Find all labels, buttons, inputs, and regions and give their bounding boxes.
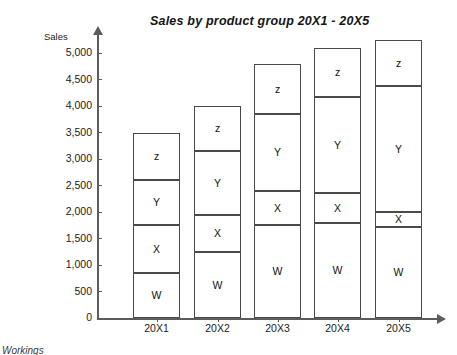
bar-segment-label: X [214, 228, 221, 239]
x-axis-arrowhead [437, 314, 446, 324]
bar-segment-x[interactable]: X [194, 215, 241, 252]
plot-area: 05001,0001,5002,0002,5003,0003,5004,0004… [0, 0, 457, 355]
bar-segment-label: X [274, 203, 281, 214]
y-axis-line [97, 34, 99, 319]
y-tick-mark [97, 291, 102, 292]
bar-segment-w[interactable]: W [133, 273, 180, 318]
stacked-bar[interactable]: WXYz [133, 133, 180, 319]
y-tick-label: 3,000 [36, 152, 92, 164]
y-tick-label: 5,000 [36, 46, 92, 58]
y-tick-label: 1,000 [36, 258, 92, 270]
x-tick-label-20x4: 20X4 [308, 322, 368, 334]
stacked-bar[interactable]: WXYz [375, 40, 422, 318]
stacked-bar[interactable]: WXYz [194, 106, 241, 318]
bar-segment-label: Y [153, 197, 160, 208]
bar-segment-x[interactable]: X [254, 191, 301, 225]
y-tick-label: 1,500 [36, 232, 92, 244]
bar-segment-x[interactable]: X [314, 193, 361, 222]
bar-segment-label: Y [334, 140, 341, 151]
bar-segment-x[interactable]: X [375, 212, 422, 227]
bar-segment-label: W [394, 267, 404, 278]
x-axis-line [97, 318, 437, 320]
bar-segment-label: X [334, 203, 341, 214]
bar-segment-label: W [152, 290, 162, 301]
bar-segment-label: z [275, 84, 280, 95]
y-tick-label: 4,000 [36, 99, 92, 111]
bar-segment-label: Y [274, 147, 281, 158]
y-tick-mark [97, 185, 102, 186]
bar-segment-y[interactable]: Y [194, 151, 241, 215]
bar-segment-label: W [273, 266, 283, 277]
bar-segment-z[interactable]: z [254, 64, 301, 114]
y-tick-mark [97, 132, 102, 133]
y-tick-label: 4,500 [36, 73, 92, 85]
y-tick-label: 2,500 [36, 179, 92, 191]
y-axis-arrowhead [93, 26, 103, 35]
bar-segment-label: Y [395, 144, 402, 155]
bar-segment-w[interactable]: W [254, 225, 301, 318]
sales-by-product-group-chart: Sales by product group 20X1 - 20X5 Sales… [0, 0, 457, 355]
bar-segment-label: z [335, 67, 340, 78]
bar-segment-y[interactable]: Y [254, 114, 301, 191]
y-tick-label: 0 [36, 311, 92, 323]
bar-segment-label: Y [214, 178, 221, 189]
bar-segment-y[interactable]: Y [375, 86, 422, 212]
y-tick-mark [97, 106, 102, 107]
y-tick-mark [97, 212, 102, 213]
bar-segment-z[interactable]: z [375, 40, 422, 86]
bar-segment-label: X [153, 244, 160, 255]
x-tick-label-20x3: 20X3 [248, 322, 308, 334]
stacked-bar[interactable]: WXYz [254, 64, 301, 318]
bar-segment-z[interactable]: z [314, 48, 361, 97]
bar-segment-y[interactable]: Y [314, 97, 361, 194]
bar-segment-w[interactable]: W [194, 252, 241, 318]
bar-segment-label: W [213, 280, 223, 291]
y-tick-label: 3,500 [36, 126, 92, 138]
bar-segment-label: z [215, 123, 220, 134]
y-tick-label: 2,000 [36, 205, 92, 217]
bar-segment-z[interactable]: z [194, 106, 241, 151]
bar-segment-w[interactable]: W [314, 223, 361, 318]
bar-segment-label: z [396, 58, 401, 69]
bar-segment-label: z [154, 151, 159, 162]
stacked-bar[interactable]: WXYz [314, 48, 361, 318]
bar-segment-x[interactable]: X [133, 225, 180, 273]
y-tick-mark [97, 265, 102, 266]
y-tick-mark [97, 53, 102, 54]
y-tick-mark [97, 318, 102, 319]
workings-note: Workings [2, 345, 44, 355]
bar-segment-z[interactable]: z [133, 133, 180, 181]
y-tick-mark [97, 79, 102, 80]
x-tick-label-20x2: 20X2 [188, 322, 248, 334]
x-tick-label-20x5: 20X5 [369, 322, 429, 334]
y-tick-mark [97, 159, 102, 160]
bar-segment-w[interactable]: W [375, 227, 422, 318]
bar-segment-label: X [395, 214, 402, 225]
y-tick-label: 500 [36, 285, 92, 297]
y-tick-mark [97, 238, 102, 239]
bar-segment-y[interactable]: Y [133, 180, 180, 225]
x-tick-label-20x1: 20X1 [127, 322, 187, 334]
bar-segment-label: W [333, 265, 343, 276]
